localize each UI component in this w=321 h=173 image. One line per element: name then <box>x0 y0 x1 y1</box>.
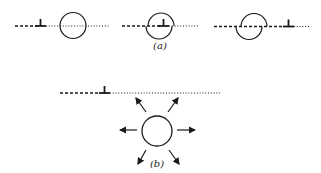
arrow-up-right-icon <box>168 98 178 112</box>
cavity-upper-half <box>241 14 267 27</box>
dislocation-symbol-icon <box>158 19 169 26</box>
dislocation-symbol-icon <box>283 20 294 27</box>
dislocation-cavity-diagram <box>0 0 321 173</box>
dislocation-symbol-icon <box>35 19 46 26</box>
cavity-circle <box>142 116 172 146</box>
cavity-lower-half <box>236 27 262 40</box>
radial-arrows <box>120 98 195 164</box>
panel-a3 <box>214 14 309 40</box>
dislocation-symbol-icon <box>99 86 110 93</box>
cavity-upper-half <box>148 13 174 26</box>
cavity-circle <box>60 13 86 39</box>
arrow-up-left-icon <box>136 98 146 112</box>
cavity-lower-half <box>146 26 172 39</box>
arrow-down-left-icon <box>138 150 146 164</box>
panel-a2 <box>122 13 198 39</box>
arrow-down-right-icon <box>169 150 179 164</box>
panel-b <box>60 86 222 164</box>
label-part-b: (b) <box>150 158 164 169</box>
label-part-a: (a) <box>153 40 167 51</box>
panel-a1 <box>15 13 110 39</box>
